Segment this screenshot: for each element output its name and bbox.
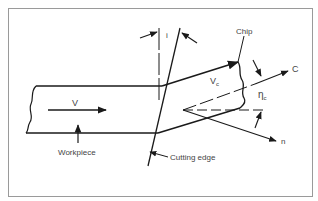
- eta-label: ηc: [258, 89, 267, 101]
- inclination-label: i: [166, 31, 168, 40]
- inclination-arrow-right-icon: [182, 33, 197, 43]
- cutting-edge-line: [148, 28, 180, 166]
- eta-arrow-top-icon: [253, 60, 261, 76]
- inclination-arrow-left-icon: [140, 32, 157, 38]
- cutting-edge-pointer-icon: [150, 152, 168, 157]
- chip-upper-edge: [162, 62, 238, 86]
- chip-velocity-label: Vc: [210, 76, 219, 87]
- normal-arrow-icon: [183, 110, 276, 141]
- velocity-label: V: [72, 98, 78, 108]
- chip-flow-dashed: [183, 84, 255, 110]
- workpiece-label: Workpiece: [58, 148, 96, 157]
- chip-pointer: [238, 36, 244, 62]
- cutting-edge-label: Cutting edge: [170, 153, 216, 162]
- chip-lower-edge: [158, 108, 240, 133]
- oblique-cutting-diagram: V Workpiece i Chip C Vc n ηc Cutting edg…: [0, 0, 318, 201]
- eta-arrow-bottom-icon: [255, 112, 261, 128]
- c-axis-label: C: [292, 64, 299, 74]
- chip-label: Chip: [236, 27, 253, 36]
- diagram-frame: [9, 9, 313, 197]
- n-axis-label: n: [281, 137, 285, 146]
- chip-end: [238, 62, 245, 108]
